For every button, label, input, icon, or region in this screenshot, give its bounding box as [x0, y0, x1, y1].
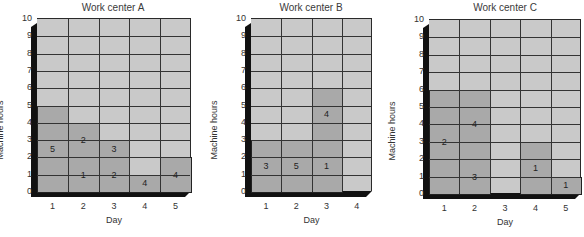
- y-tick-label: 4: [410, 118, 424, 128]
- y-tick-label: 8: [232, 48, 246, 58]
- job-label: 4: [141, 178, 148, 188]
- job-label: 1: [532, 163, 539, 173]
- x-tick-label: 4: [354, 201, 359, 211]
- x-tick-label: 3: [502, 203, 507, 213]
- job-label: 3: [263, 161, 270, 171]
- y-tick-label: 10: [410, 14, 424, 24]
- y-tick-label: 8: [18, 48, 32, 58]
- grid-line: [429, 107, 580, 108]
- y-tick-label: 9: [410, 31, 424, 41]
- x-tick-label: 1: [442, 203, 447, 213]
- x-tick-label: 1: [50, 201, 55, 211]
- y-tick-label: 10: [18, 13, 32, 23]
- x-tick-label: 5: [563, 203, 568, 213]
- y-tick-label: 0: [410, 188, 424, 198]
- grid-line: [68, 19, 69, 191]
- job-label: 5: [49, 144, 56, 154]
- y-tick-label: 3: [18, 134, 32, 144]
- y-axis-label: Machine hours: [387, 96, 397, 166]
- y-axis-label: Machine hours: [0, 95, 5, 165]
- y-tick-label: 10: [232, 13, 246, 23]
- grid-line: [37, 106, 190, 107]
- job-label: 1: [80, 170, 87, 180]
- job-label: 3: [110, 144, 117, 154]
- grid-line: [429, 37, 580, 38]
- y-tick-label: 6: [410, 84, 424, 94]
- job-label: 5: [293, 161, 300, 171]
- y-tick-label: 0: [232, 186, 246, 196]
- y-tick-label: 1: [410, 171, 424, 181]
- x-tick-label: 4: [142, 201, 147, 211]
- grid-line: [37, 88, 190, 89]
- y-tick-label: 9: [232, 30, 246, 40]
- y-tick-label: 5: [18, 100, 32, 110]
- x-axis-label: Day: [497, 217, 513, 227]
- grid-line: [429, 55, 580, 56]
- y-tick-label: 8: [410, 49, 424, 59]
- grid-line: [37, 123, 190, 124]
- chart-grid: 3514: [251, 18, 372, 191]
- grid-line: [129, 19, 130, 191]
- x-tick-label: 3: [324, 201, 329, 211]
- grid-line: [429, 177, 580, 178]
- job-label: 3: [471, 172, 478, 182]
- chart-grid: 5122344: [37, 18, 191, 191]
- grid-line: [37, 54, 190, 55]
- job-label: 2: [80, 135, 87, 145]
- chart-title: Work center A: [82, 2, 145, 13]
- grid-line: [551, 20, 552, 193]
- x-tick-label: 2: [472, 203, 477, 213]
- job-label: 1: [562, 180, 569, 190]
- y-tick-label: 2: [410, 153, 424, 163]
- x-axis-label: Day: [303, 215, 319, 225]
- grid-line: [37, 140, 190, 141]
- chart-title: Work center B: [279, 2, 342, 13]
- grid-line: [37, 36, 190, 37]
- job-label: 4: [172, 170, 179, 180]
- y-tick-label: 3: [232, 134, 246, 144]
- grid-line: [520, 20, 521, 193]
- y-tick-label: 2: [18, 151, 32, 161]
- grid-line: [99, 19, 100, 191]
- grid-line: [429, 159, 580, 160]
- x-tick-label: 4: [533, 203, 538, 213]
- grid-line: [37, 71, 190, 72]
- y-tick-label: 5: [410, 101, 424, 111]
- x-tick-label: 1: [264, 201, 269, 211]
- job-label: 4: [471, 119, 478, 129]
- y-tick-label: 6: [18, 82, 32, 92]
- y-tick-label: 2: [232, 151, 246, 161]
- grid-line: [342, 19, 343, 191]
- y-tick-label: 4: [232, 117, 246, 127]
- y-tick-label: 7: [410, 66, 424, 76]
- job-label: 2: [441, 137, 448, 147]
- y-tick-label: 0: [18, 186, 32, 196]
- y-tick-label: 9: [18, 30, 32, 40]
- grid-line: [37, 157, 190, 158]
- x-tick-label: 2: [81, 201, 86, 211]
- grid-line: [429, 124, 580, 125]
- grid-line: [429, 142, 580, 143]
- chart-title: Work center C: [473, 2, 537, 13]
- grid-line: [429, 72, 580, 73]
- y-tick-label: 1: [18, 169, 32, 179]
- y-tick-label: 7: [232, 65, 246, 75]
- x-tick-label: 2: [294, 201, 299, 211]
- job-label: 2: [110, 170, 117, 180]
- grid-line: [459, 20, 460, 193]
- y-tick-label: 4: [18, 117, 32, 127]
- x-tick-label: 5: [173, 201, 178, 211]
- chart-grid: 23411: [429, 19, 581, 193]
- x-tick-label: 3: [111, 201, 116, 211]
- y-tick-label: 1: [232, 169, 246, 179]
- x-axis-label: Day: [106, 215, 122, 225]
- y-tick-label: 7: [18, 65, 32, 75]
- grid-line: [490, 20, 491, 193]
- y-tick-label: 3: [410, 136, 424, 146]
- grid-line: [312, 19, 313, 191]
- y-axis-label: Machine hours: [209, 95, 219, 165]
- y-tick-label: 6: [232, 82, 246, 92]
- job-label: 4: [323, 109, 330, 119]
- job-label: 1: [323, 161, 330, 171]
- grid-line: [429, 90, 580, 91]
